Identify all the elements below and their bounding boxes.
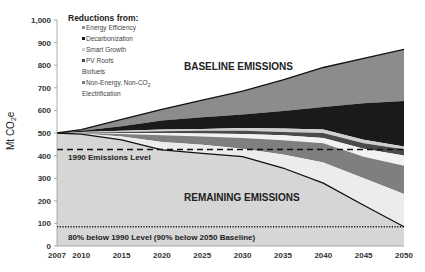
legend-item-pv-roofs: PV Roofs [86, 57, 114, 64]
legend-swatch-decarbonization [82, 37, 85, 40]
legend-item-smart-growth: Smart Growth [86, 46, 126, 53]
legend-swatch-pv-roofs [82, 59, 85, 62]
x-axis-ticks: 2007201020152020202520302035204020452050 [48, 251, 413, 260]
y-tick-label: 800 [38, 61, 52, 70]
y-tick-label: 0 [47, 242, 52, 251]
legend-title: Reductions from: [68, 13, 139, 23]
x-tick-label: 2007 [48, 251, 66, 260]
x-tick-label: 2020 [153, 251, 171, 260]
legend-swatch-energy-efficiency [82, 26, 85, 29]
y-tick-label: 400 [38, 152, 52, 161]
legend: Reductions from: Energy Efficiency Decar… [68, 13, 151, 97]
y-tick-label: 300 [38, 174, 52, 183]
y-tick-label: 600 [38, 106, 52, 115]
x-tick-label: 2045 [355, 251, 373, 260]
x-tick-label: 2040 [314, 251, 332, 260]
y-tick-label: 900 [38, 39, 52, 48]
legend-swatch-smart-growth [82, 48, 85, 51]
legend-item-decarbonization: Decarbonization [86, 35, 133, 42]
legend-item-energy-efficiency: Energy Efficiency [86, 24, 137, 32]
target-level-label: 80% below 1990 Level (90% below 2050 Bas… [68, 233, 256, 242]
y-tick-label: 1,000 [31, 16, 52, 25]
x-tick-label: 2050 [395, 251, 413, 260]
y-axis-label: Mt CO2e [5, 111, 17, 150]
legend-item-non-energy: Non-Energy, Non-CO2 [86, 79, 151, 88]
y-tick-label: 700 [38, 84, 52, 93]
y-tick-label: 500 [38, 129, 52, 138]
y-tick-label: 100 [38, 219, 52, 228]
emissions-wedge-chart: 01002003004005006007008009001,000 200720… [0, 0, 425, 272]
level-1990-label: 1990 Emissions Level [68, 153, 151, 162]
x-tick-label: 2035 [274, 251, 292, 260]
y-axis-ticks: 01002003004005006007008009001,000 [31, 16, 57, 251]
x-tick-label: 2010 [72, 251, 90, 260]
remaining-emissions-label: REMAINING EMISSIONS [184, 192, 300, 203]
legend-item-biofuels: Biofuels [82, 68, 106, 75]
legend-swatch-non-energy [82, 81, 85, 84]
baseline-emissions-label: BASELINE EMISSIONS [184, 61, 293, 72]
x-tick-label: 2030 [234, 251, 252, 260]
legend-item-electrification: Electrification [82, 90, 121, 97]
y-tick-label: 200 [38, 197, 52, 206]
x-tick-label: 2025 [193, 251, 211, 260]
x-tick-label: 2015 [113, 251, 131, 260]
